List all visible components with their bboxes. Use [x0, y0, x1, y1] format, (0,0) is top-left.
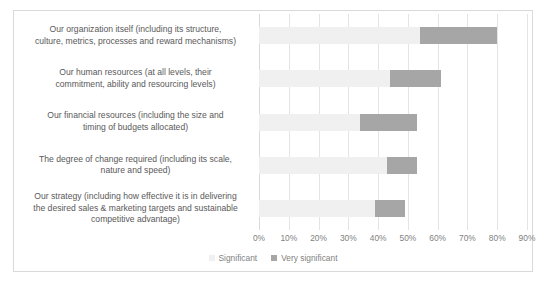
- bar-segment-significant: [259, 27, 420, 44]
- category-label-line: timing of budgets allocated): [18, 122, 253, 134]
- category-label: Our organization itself (including its s…: [14, 24, 257, 47]
- category-label-line: Our financial resources (including the s…: [18, 110, 253, 122]
- category-label-line: commitment, ability and resourcing level…: [18, 79, 253, 91]
- legend-label: Very significant: [281, 253, 337, 263]
- bar-segment-very-significant: [375, 200, 405, 217]
- bar-row: [259, 27, 527, 44]
- tick-label-70: 70%: [459, 233, 476, 243]
- bar-segment-significant: [259, 70, 390, 87]
- chart-plot-wrapper: Our organization itself (including its s…: [14, 11, 532, 271]
- category-label-line: The degree of change required (including…: [18, 154, 253, 166]
- category-label-line: Our human resources (at all levels, thei…: [18, 67, 253, 79]
- bar-row: [259, 157, 527, 174]
- tick-label-60: 60%: [429, 233, 446, 243]
- tick-label-10: 10%: [280, 233, 297, 243]
- gridline-90: [527, 14, 528, 230]
- tick-label-50: 50%: [399, 233, 416, 243]
- legend-swatch-icon: [209, 255, 215, 261]
- chart-legend: SignificantVery significant: [14, 251, 532, 265]
- tick-label-80: 80%: [489, 233, 506, 243]
- bar-row: [259, 70, 527, 87]
- category-label: Our human resources (at all levels, thei…: [14, 67, 257, 90]
- bar-segment-very-significant: [420, 27, 497, 44]
- legend-label: Significant: [219, 253, 258, 263]
- category-label-line: competitive advantage): [18, 214, 253, 226]
- legend-swatch-icon: [271, 255, 277, 261]
- bar-segment-significant: [259, 200, 375, 217]
- category-label: The degree of change required (including…: [14, 154, 257, 177]
- tick-label-30: 30%: [340, 233, 357, 243]
- tick-label-90: 90%: [519, 233, 536, 243]
- tick-label-0: 0%: [253, 233, 265, 243]
- chart-container: Our organization itself (including its s…: [13, 10, 533, 272]
- category-label-line: the desired sales & marketing targets an…: [18, 203, 253, 215]
- category-label: Our strategy (including how effective it…: [14, 191, 257, 226]
- tick-label-40: 40%: [370, 233, 387, 243]
- category-label: Our financial resources (including the s…: [14, 110, 257, 133]
- value-axis-ticks: 0%10%20%30%40%50%60%70%80%90%: [259, 233, 527, 247]
- category-axis-labels: Our organization itself (including its s…: [14, 14, 257, 230]
- bar-row: [259, 200, 527, 217]
- bar-segment-significant: [259, 157, 387, 174]
- category-label-line: nature and speed): [18, 165, 253, 177]
- bar-segment-very-significant: [387, 157, 417, 174]
- legend-item[interactable]: Very significant: [271, 253, 337, 263]
- bar-segment-significant: [259, 114, 360, 131]
- tick-label-20: 20%: [310, 233, 327, 243]
- category-label-line: Our organization itself (including its s…: [18, 24, 253, 36]
- legend-item[interactable]: Significant: [209, 253, 258, 263]
- bar-segment-very-significant: [390, 70, 441, 87]
- category-label-line: culture, metrics, processes and reward m…: [18, 36, 253, 48]
- bar-segment-very-significant: [360, 114, 417, 131]
- category-label-line: Our strategy (including how effective it…: [18, 191, 253, 203]
- plot-area: [259, 14, 527, 230]
- bar-row: [259, 114, 527, 131]
